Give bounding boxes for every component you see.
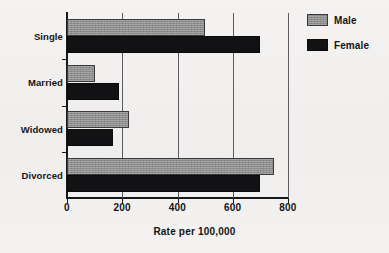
bar-single-female (67, 36, 260, 53)
female-swatch-icon (307, 39, 328, 51)
x-axis-title: Rate per 100,000 (0, 226, 389, 237)
bar-single-male (67, 19, 205, 36)
category-label-single: Single (34, 31, 63, 42)
x-tick-label: 800 (279, 202, 296, 213)
male-swatch-icon (307, 14, 328, 26)
category-label-divorced: Divorced (22, 169, 63, 180)
x-tick-label: 400 (169, 202, 186, 213)
legend-item-female: Female (307, 39, 369, 51)
y-tick-mark (62, 152, 67, 153)
bar-divorced-male (67, 158, 274, 175)
bar-married-female (67, 83, 119, 100)
legend-label-female: Female (334, 40, 369, 51)
y-tick-mark (62, 106, 67, 107)
legend-label-male: Male (334, 15, 357, 26)
y-tick-mark (62, 59, 67, 60)
bar-divorced-female (67, 175, 260, 192)
bar-widowed-male (67, 111, 129, 128)
gridline (288, 13, 289, 198)
legend-item-male: Male (307, 14, 369, 26)
x-tick-label: 0 (64, 202, 70, 213)
plot-area (67, 13, 288, 198)
x-tick-label: 200 (114, 202, 131, 213)
bar-chart: 0200400600800 SingleMarriedWidowedDivorc… (0, 0, 389, 253)
category-label-married: Married (28, 77, 63, 88)
category-label-widowed: Widowed (21, 123, 63, 134)
bar-married-male (67, 65, 95, 82)
bar-widowed-female (67, 129, 113, 146)
legend: Male Female (307, 14, 369, 64)
x-tick-label: 600 (224, 202, 241, 213)
